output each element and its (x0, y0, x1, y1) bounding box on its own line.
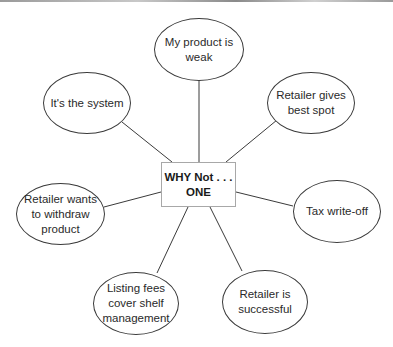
node-line: Retailer wants (24, 192, 97, 207)
node-line: My product is (165, 35, 233, 50)
center-node: WHY Not . . . ONE (161, 162, 236, 207)
connector-retailer-gives-best-spot (226, 120, 277, 162)
node-line: successful (238, 302, 292, 317)
node-retailer-gives-best-spot: Retailer gives best spot (267, 72, 355, 134)
node-retailer-is-successful: Retailer is successful (222, 270, 308, 334)
node-line: best spot (276, 103, 346, 118)
node-its-the-system: It's the system (43, 72, 131, 134)
node-line: management (102, 311, 169, 326)
node-tax-write-off: Tax write-off (293, 180, 381, 243)
node-retailer-wants-to-withdraw-product: Retailer wants to withdraw product (16, 183, 105, 245)
node-line: Tax write-off (306, 204, 368, 219)
node-line: cover shelf (102, 296, 169, 311)
connector-its-the-system (122, 122, 172, 162)
node-my-product-is-weak: My product is weak (154, 18, 244, 81)
node-line: Retailer is (238, 287, 292, 302)
node-listing-fees-cover-shelf-management: Listing fees cover shelf management (93, 272, 179, 335)
center-node-line-1: WHY Not . . . (164, 170, 232, 185)
node-line: Listing fees (102, 281, 169, 296)
connector-listing-fees-cover-shelf-management (157, 207, 188, 273)
node-line: to withdraw (24, 207, 97, 222)
node-line: product (24, 222, 97, 237)
node-line: weak (165, 50, 233, 65)
center-node-line-2: ONE (186, 185, 211, 200)
connector-retailer-wants-to-withdraw-product (104, 192, 161, 207)
node-line: Retailer gives (276, 88, 346, 103)
connector-retailer-is-successful (210, 207, 242, 271)
connector-tax-write-off (236, 192, 293, 206)
node-line: It's the system (50, 96, 123, 111)
